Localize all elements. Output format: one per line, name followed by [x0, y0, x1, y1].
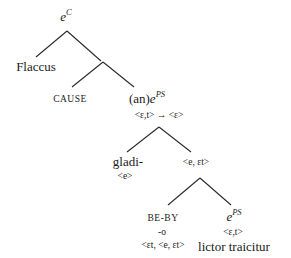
e-et-node: <e, εt>: [183, 158, 209, 168]
edge-n1-an-eps: [103, 62, 134, 87]
beby-type: <εt, <e, εt>: [141, 241, 184, 251]
an-prefix: (an): [129, 91, 150, 106]
edge-root-flaccus: [36, 31, 67, 57]
beby-node: BE-BY: [148, 214, 179, 224]
edge-an-eps-gladi: [127, 127, 159, 152]
an-eps-node: (an)ePS: [129, 92, 165, 105]
eps2-sup: PS: [232, 207, 241, 217]
root-sup: C: [66, 7, 72, 17]
edge-n1-cause: [72, 62, 103, 87]
edge-e-et-beby: [168, 178, 200, 205]
root-node: eC: [60, 10, 71, 23]
eps2-type: <ε,t>: [223, 228, 243, 238]
edge-an-eps-e-et: [159, 127, 191, 152]
an-eps-sup: PS: [156, 89, 165, 99]
tree-edges: [0, 0, 291, 258]
an-eps-type: <ε,t> → <ε>: [135, 111, 184, 121]
eps2-node: ePS: [226, 210, 241, 223]
flaccus-node: Flaccus: [16, 60, 56, 73]
gladi-node: gladi-: [113, 155, 143, 168]
edge-e-et-eps2: [200, 178, 231, 205]
beby-morph: -o: [158, 228, 166, 238]
edge-root-n1: [67, 31, 101, 61]
gladi-type: <e>: [118, 172, 133, 182]
cause-node: CAUSE: [53, 95, 87, 105]
eps2-gloss: lictor traicitur: [198, 240, 270, 253]
